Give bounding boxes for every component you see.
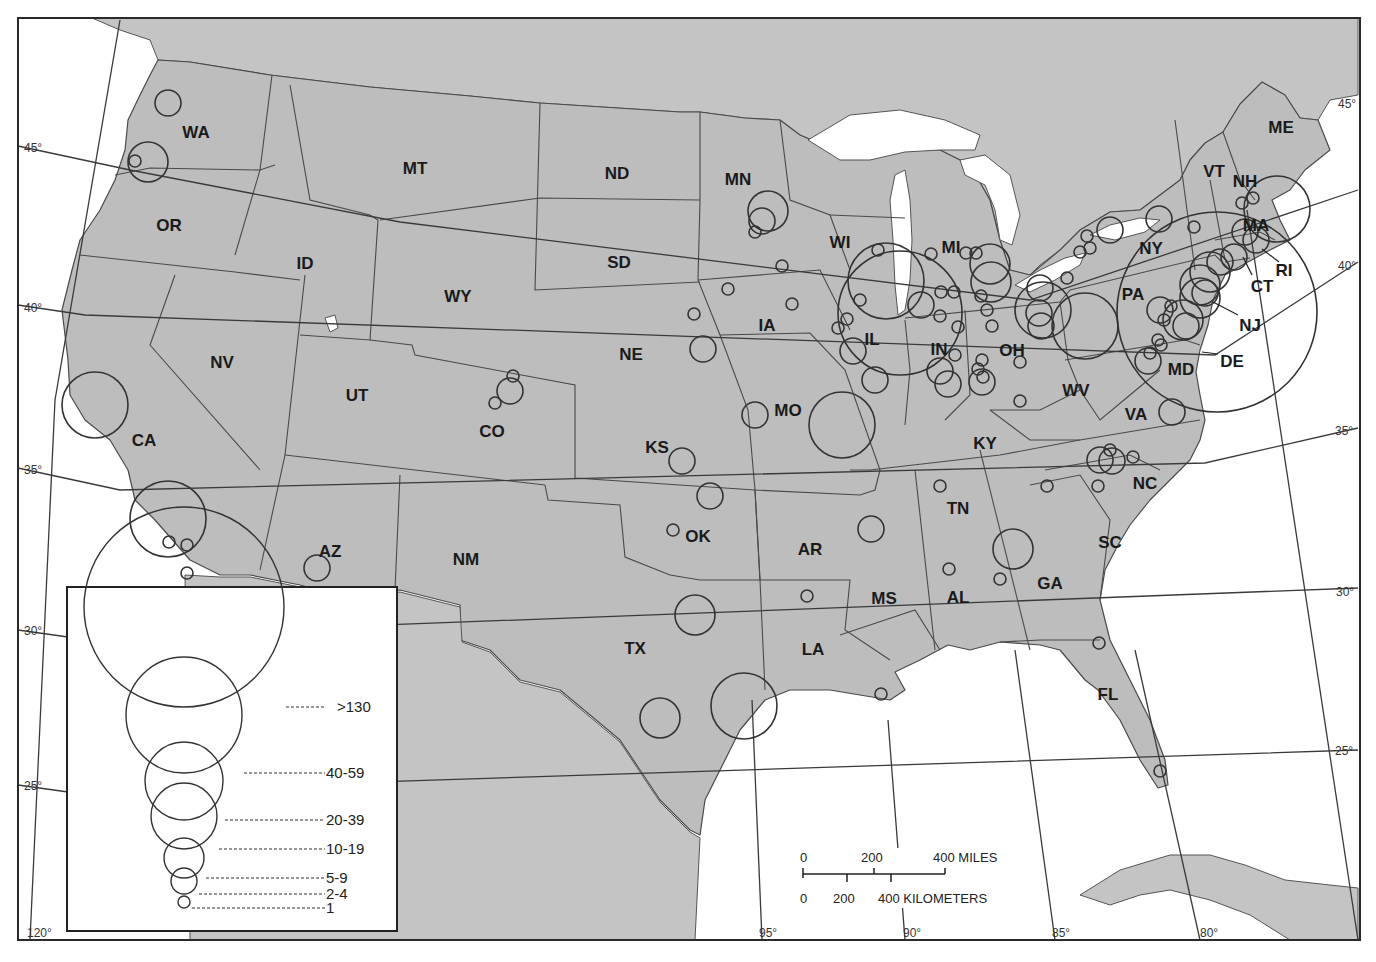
scale-km-200: 200 [833, 891, 855, 906]
state-label-wa: WA [182, 123, 209, 142]
state-label-de: DE [1220, 352, 1244, 371]
legend-label: >130 [337, 698, 371, 715]
legend-label: 10-19 [326, 840, 364, 857]
legend-label: 1 [326, 899, 334, 916]
state-label-sc: SC [1098, 533, 1122, 552]
latitude-label: 30° [1336, 585, 1354, 599]
us-proportional-symbol-map: 45°40°35°30°25°45°40°35°30°25°120°95°90°… [0, 0, 1376, 962]
latitude-label: 25° [24, 779, 42, 793]
state-label-az: AZ [319, 542, 342, 561]
state-label-wi: WI [830, 233, 851, 252]
state-label-ia: IA [759, 316, 776, 335]
state-label-sd: SD [607, 253, 631, 272]
state-label-ne: NE [619, 345, 643, 364]
state-label-ok: OK [685, 527, 711, 546]
state-label-tn: TN [947, 499, 970, 518]
state-label-nv: NV [210, 353, 234, 372]
scale-miles-400: 400 MILES [933, 850, 998, 865]
state-label-pa: PA [1122, 285, 1144, 304]
state-label-ga: GA [1037, 574, 1063, 593]
latitude-label: 25° [1335, 744, 1353, 758]
state-label-ma: MA [1243, 216, 1269, 235]
state-label-ut: UT [346, 386, 369, 405]
scale-miles-0: 0 [800, 850, 807, 865]
longitude-label: 120° [27, 926, 52, 940]
state-label-co: CO [479, 422, 505, 441]
state-label-vt: VT [1203, 162, 1225, 181]
state-label-md: MD [1168, 360, 1194, 379]
state-label-il: IL [864, 330, 879, 349]
state-label-nd: ND [605, 164, 630, 183]
longitude-label: 85° [1052, 926, 1070, 940]
state-label-tx: TX [624, 639, 646, 658]
latitude-label: 40° [24, 301, 42, 315]
state-label-or: OR [156, 216, 182, 235]
state-label-wv: WV [1062, 381, 1090, 400]
state-label-ri: RI [1276, 261, 1293, 280]
state-label-ms: MS [871, 589, 897, 608]
longitude-label: 95° [759, 926, 777, 940]
state-label-fl: FL [1098, 685, 1119, 704]
latitude-label: 30° [24, 624, 42, 638]
scale-km-400: 400 KILOMETERS [878, 891, 987, 906]
state-label-mi: MI [942, 238, 961, 257]
state-label-me: ME [1268, 118, 1294, 137]
state-label-ct: CT [1251, 277, 1274, 296]
state-label-ky: KY [973, 434, 997, 453]
state-label-nh: NH [1233, 172, 1258, 191]
latitude-label: 45° [1338, 97, 1356, 111]
state-label-mn: MN [725, 170, 751, 189]
state-label-wy: WY [444, 287, 472, 306]
state-label-ks: KS [645, 438, 669, 457]
state-label-va: VA [1125, 405, 1147, 424]
state-label-mt: MT [403, 159, 428, 178]
state-label-nm: NM [453, 550, 479, 569]
state-label-in: IN [931, 340, 948, 359]
state-label-al: AL [947, 588, 970, 607]
state-label-oh: OH [999, 341, 1025, 360]
latitude-label: 35° [1335, 424, 1353, 438]
state-label-la: LA [802, 640, 825, 659]
state-label-ny: NY [1139, 239, 1163, 258]
scale-km-0: 0 [800, 891, 807, 906]
state-label-mo: MO [774, 401, 801, 420]
legend-label: 5-9 [326, 869, 348, 886]
latitude-label: 40° [1338, 259, 1356, 273]
legend-label: 20-39 [326, 811, 364, 828]
longitude-label: 80° [1200, 926, 1218, 940]
scale-miles-200: 200 [861, 850, 883, 865]
state-label-nc: NC [1133, 474, 1158, 493]
longitude-label: 90° [903, 926, 921, 940]
state-label-id: ID [297, 254, 314, 273]
state-label-ca: CA [132, 431, 157, 450]
scale-bar: 0 200 400 MILES 0 200 400 KILOMETERS [795, 848, 1035, 908]
latitude-label: 35° [24, 463, 42, 477]
state-label-nj: NJ [1239, 316, 1261, 335]
state-label-ar: AR [798, 540, 823, 559]
legend-label: 40-59 [326, 764, 364, 781]
latitude-label: 45° [24, 141, 42, 155]
